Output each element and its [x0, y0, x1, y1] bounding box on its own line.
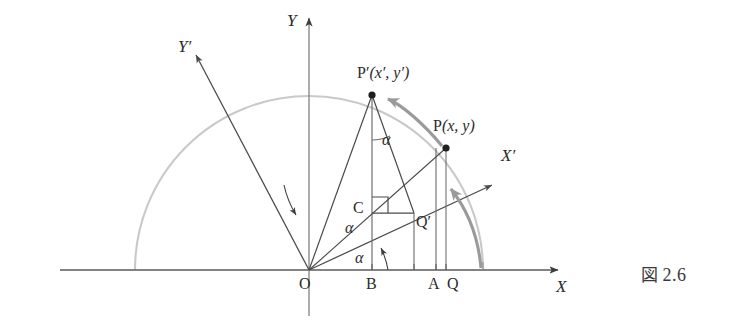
x-prime-axis [309, 185, 492, 270]
segment-o-pprime [309, 95, 372, 270]
point-label-p-args: (x, y) [442, 117, 475, 134]
point-label-c: C [353, 200, 364, 216]
y-axis-label: Y [287, 12, 296, 29]
point-label-p-prime-name: P′ [357, 64, 369, 81]
point-label-b: B [366, 276, 377, 292]
point-label-p-prime-args: (x′, y′) [369, 64, 409, 81]
x-axis-ticks [372, 262, 483, 270]
figure-caption-symbol: 図 [641, 265, 659, 285]
segment-o-p [309, 148, 446, 270]
point-label-a: A [428, 276, 440, 292]
point-marker-p-prime [368, 91, 375, 98]
x-prime-axis-label: X′ [501, 147, 515, 164]
rotation-arrow-x [451, 189, 481, 268]
angle-arc-alpha-x [381, 248, 388, 270]
point-label-p: P(x, y) [433, 118, 475, 134]
angle-label-alpha-origin-x: α [355, 250, 363, 266]
figure-caption-number: 2.6 [663, 265, 687, 285]
point-label-q-prime: Q′ [416, 214, 431, 230]
point-label-origin: O [299, 276, 311, 292]
angle-arc-alpha-y [284, 185, 296, 215]
y-prime-axis-label: Y′ [178, 38, 191, 55]
point-label-p-name: P [433, 117, 442, 134]
point-marker-p [442, 144, 449, 151]
angle-label-alpha-origin-y: α [345, 220, 353, 236]
point-label-q: Q [447, 276, 459, 292]
right-angle-mark-c [372, 197, 388, 213]
point-label-p-prime: P′(x′, y′) [357, 65, 409, 81]
x-axis-label: X [556, 278, 566, 295]
figure-caption: 図2.6 [641, 266, 687, 284]
angle-label-alpha-p-prime: α [382, 132, 390, 148]
y-prime-axis [196, 55, 309, 270]
figure-2-6: Y X Y′ X′ P′(x′, y′) P(x, y) O B A Q C Q… [0, 0, 743, 324]
